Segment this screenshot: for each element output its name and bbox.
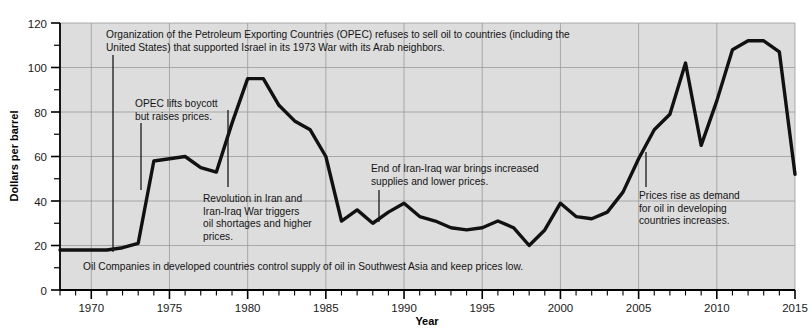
x-tick-label: 1995 — [469, 302, 495, 314]
x-tick-label: 2015 — [782, 302, 808, 314]
annotation-text-line: End of Iran-Iraq war brings increased — [371, 163, 539, 174]
x-tick-label: 2005 — [626, 302, 652, 314]
x-axis-ticks — [60, 290, 795, 299]
x-tick-label: 1985 — [313, 302, 339, 314]
x-tick-label: 1990 — [391, 302, 417, 314]
annotation-text-line: Prices rise as demand — [639, 190, 740, 201]
annotation-text-line: Revolution in Iran and — [203, 193, 302, 204]
annotation-text-line: OPEC lifts boycott — [135, 98, 218, 109]
annotation-text-line: Organization of the Petroleum Exporting … — [106, 29, 570, 40]
y-axis-title: Dollars per barrel — [8, 110, 20, 201]
x-axis-tick-labels: 1970197519801985199019952000200520102015 — [78, 302, 807, 314]
x-tick-label: 1975 — [157, 302, 183, 314]
annotation-text-line: countries increases. — [639, 215, 730, 226]
annotation-text-line: Oil Companies in developed countries con… — [83, 261, 523, 272]
y-tick-label: 60 — [34, 151, 47, 163]
x-axis-title: Year — [415, 315, 439, 327]
chart-canvas: 020406080100120 197019751980198519901995… — [0, 0, 812, 330]
y-tick-label: 0 — [41, 285, 47, 297]
annotation-text-line: prices. — [203, 231, 233, 242]
y-tick-label: 100 — [28, 62, 47, 74]
y-axis-tick-labels: 020406080100120 — [28, 18, 47, 297]
annotation-text-line: supplies and lower prices. — [371, 176, 488, 187]
x-tick-label: 1970 — [78, 302, 104, 314]
y-tick-label: 80 — [34, 107, 47, 119]
annotation-text-line: Iran-Iraq War triggers — [203, 206, 299, 217]
oil-price-chart-figure: 020406080100120 197019751980198519901995… — [0, 0, 812, 330]
x-tick-label: 1980 — [235, 302, 261, 314]
y-tick-label: 120 — [28, 18, 47, 30]
y-tick-label: 40 — [34, 196, 47, 208]
y-tick-label: 20 — [34, 240, 47, 252]
x-tick-label: 2000 — [548, 302, 574, 314]
annotation-text-line: for oil in developing — [639, 203, 727, 214]
annotation-text-line: United States) that supported Israel in … — [106, 42, 445, 53]
x-tick-label: 2010 — [704, 302, 730, 314]
annotation-text-line: but raises prices. — [135, 111, 212, 122]
annotation-text-line: oil shortages and higher — [203, 218, 312, 229]
